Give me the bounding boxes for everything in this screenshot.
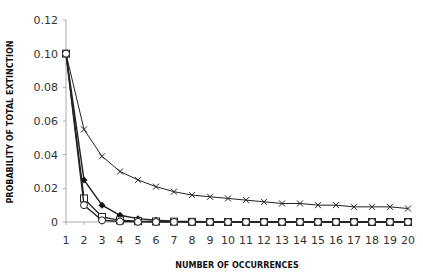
x-tick-label: 12 [257, 234, 271, 247]
circle-marker-icon [297, 219, 304, 226]
circle-marker-icon [171, 219, 178, 226]
x-tick-label: 2 [81, 234, 88, 247]
y-tick-label: 0 [51, 216, 58, 229]
x-tick-label: 8 [189, 234, 196, 247]
x-tick-label: 4 [117, 234, 124, 247]
y-axis: 00.020.040.060.080.100.12 [34, 14, 67, 229]
cross-marker-icon [99, 153, 105, 159]
x-tick-label: 1 [63, 234, 70, 247]
circle-marker-icon [279, 219, 286, 226]
circle-marker-icon [63, 50, 70, 57]
series-cross [63, 51, 411, 212]
x-tick-label: 6 [153, 234, 160, 247]
x-tick-label: 9 [207, 234, 214, 247]
x-tick-label: 11 [239, 234, 253, 247]
x-tick-label: 19 [383, 234, 397, 247]
y-tick-label: 0.06 [34, 115, 59, 128]
x-tick-label: 5 [135, 234, 142, 247]
x-tick-label: 20 [401, 234, 415, 247]
y-tick-label: 0.04 [34, 149, 59, 162]
circle-marker-icon [81, 202, 88, 209]
cross-marker-icon [153, 184, 159, 190]
x-axis: 1234567891011121314151617181920 [63, 222, 416, 247]
line-chart: 00.020.040.060.080.100.12 12345678910111… [0, 0, 423, 272]
x-tick-label: 14 [293, 234, 307, 247]
x-tick-label: 15 [311, 234, 325, 247]
circle-marker-icon [261, 219, 268, 226]
circle-marker-icon [225, 219, 232, 226]
y-axis-title: PROBABILITY OF TOTAL EXTINCTION [6, 40, 15, 203]
circle-marker-icon [333, 219, 340, 226]
x-tick-label: 3 [99, 234, 106, 247]
series-group [63, 50, 412, 225]
x-axis-title: NUMBER OF OCCURRENCES [175, 261, 299, 270]
circle-marker-icon [207, 219, 214, 226]
x-tick-label: 18 [365, 234, 379, 247]
circle-marker-icon [99, 217, 106, 224]
y-tick-label: 0.10 [34, 48, 59, 61]
circle-marker-icon [135, 218, 142, 225]
circle-marker-icon [387, 219, 394, 226]
x-tick-label: 13 [275, 234, 289, 247]
x-tick-label: 16 [329, 234, 343, 247]
cross-marker-icon [117, 169, 123, 175]
y-tick-label: 0.08 [34, 81, 59, 94]
circle-marker-icon [405, 219, 412, 226]
circle-marker-icon [189, 219, 196, 226]
x-tick-label: 7 [171, 234, 178, 247]
circle-marker-icon [351, 219, 358, 226]
circle-marker-icon [315, 219, 322, 226]
x-tick-label: 17 [347, 234, 361, 247]
circle-marker-icon [369, 219, 376, 226]
circle-marker-icon [117, 218, 124, 225]
circle-marker-icon [243, 219, 250, 226]
cross-marker-icon [135, 177, 141, 183]
x-tick-label: 10 [221, 234, 235, 247]
y-tick-label: 0.12 [34, 14, 59, 27]
y-tick-label: 0.02 [34, 182, 59, 195]
circle-marker-icon [153, 219, 160, 226]
